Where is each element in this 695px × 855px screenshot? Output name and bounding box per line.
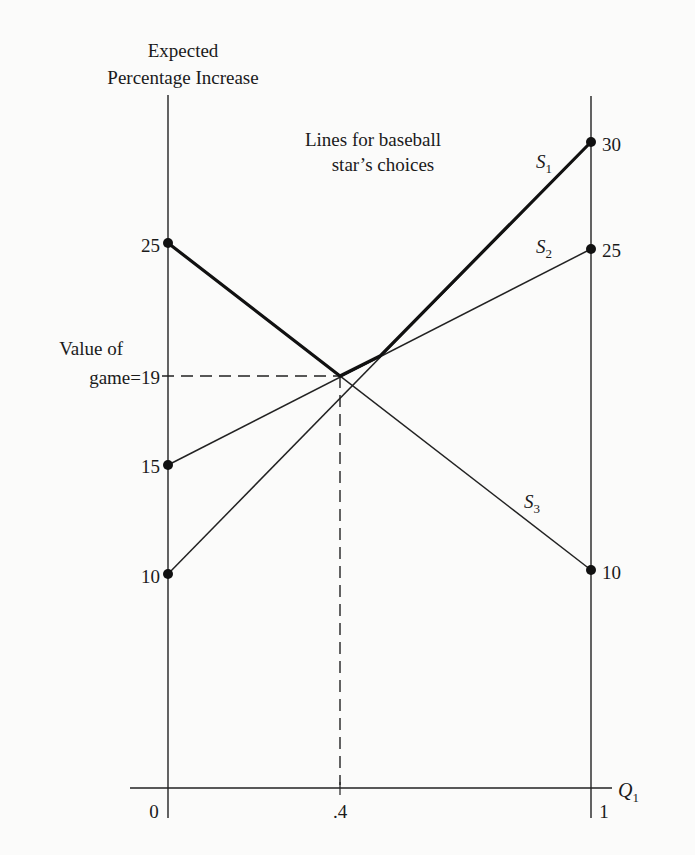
chart-title-line1: Lines for baseball bbox=[305, 129, 441, 150]
point-left-15 bbox=[163, 460, 173, 470]
point-left-25 bbox=[163, 238, 173, 248]
series-label-s1: S1 bbox=[536, 151, 552, 176]
chart-title-line2: star’s choices bbox=[332, 154, 435, 175]
right-label-30: 30 bbox=[602, 134, 621, 155]
series-label-s2: S2 bbox=[536, 236, 552, 261]
left-label-25: 25 bbox=[141, 235, 160, 256]
series-label-s3: S3 bbox=[524, 491, 540, 516]
value-of-game-label-line2: game=19 bbox=[89, 367, 160, 388]
right-label-10: 10 bbox=[602, 562, 621, 583]
point-left-10 bbox=[163, 569, 173, 579]
upper-envelope-highlight bbox=[168, 142, 591, 376]
x-axis-label: Q1 bbox=[618, 779, 639, 805]
x-tick-label-04: .4 bbox=[333, 801, 348, 822]
y-axis-title-line2: Percentage Increase bbox=[107, 67, 258, 88]
y-axis-title-line1: Expected bbox=[148, 40, 219, 61]
point-right-25 bbox=[586, 244, 596, 254]
left-label-10: 10 bbox=[141, 566, 160, 587]
left-label-15: 15 bbox=[141, 456, 160, 477]
point-right-10 bbox=[586, 565, 596, 575]
game-theory-chart: Expected Percentage Increase Lines for b… bbox=[0, 0, 695, 855]
x-tick-label-1: 1 bbox=[599, 801, 609, 822]
x-tick-label-0: 0 bbox=[149, 801, 159, 822]
value-of-game-label-line1: Value of bbox=[59, 338, 124, 359]
point-right-30 bbox=[586, 137, 596, 147]
right-label-25: 25 bbox=[602, 240, 621, 261]
